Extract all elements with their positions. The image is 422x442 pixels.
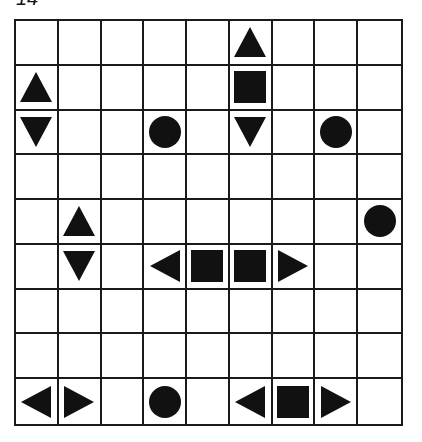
grid-cell-r8-c1[interactable] [59, 379, 102, 424]
triangle-up-icon [62, 204, 96, 238]
grid-cell-r8-c2[interactable] [102, 379, 145, 424]
grid-cell-r3-c0[interactable] [16, 155, 59, 200]
grid-cell-r8-c4[interactable] [187, 379, 230, 424]
grid-cell-r2-c4[interactable] [187, 111, 230, 156]
grid-cell-r5-c7[interactable] [315, 245, 358, 290]
grid-cell-r1-c6[interactable] [273, 66, 316, 111]
square-icon [276, 385, 310, 419]
grid-cell-r3-c5[interactable] [230, 155, 273, 200]
grid-cell-r0-c5[interactable] [230, 21, 273, 66]
grid-cell-r3-c3[interactable] [144, 155, 187, 200]
grid-cell-r8-c6[interactable] [273, 379, 316, 424]
grid-cell-r1-c7[interactable] [315, 66, 358, 111]
grid-cell-r7-c1[interactable] [59, 334, 102, 379]
grid-cell-r4-c6[interactable] [273, 200, 316, 245]
grid-cell-r1-c3[interactable] [144, 66, 187, 111]
grid-cell-r6-c3[interactable] [144, 290, 187, 335]
grid-cell-r4-c8[interactable] [358, 200, 401, 245]
grid-cell-r5-c0[interactable] [16, 245, 59, 290]
grid-cell-r6-c0[interactable] [16, 290, 59, 335]
circle-icon [319, 115, 353, 149]
grid-cell-r0-c4[interactable] [187, 21, 230, 66]
grid-cell-r2-c6[interactable] [273, 111, 316, 156]
grid-cell-r8-c7[interactable] [315, 379, 358, 424]
grid-cell-r1-c5[interactable] [230, 66, 273, 111]
grid-cell-r0-c2[interactable] [102, 21, 145, 66]
battleship-grid [14, 19, 403, 426]
grid-cell-r2-c2[interactable] [102, 111, 145, 156]
triangle-left-icon [148, 249, 182, 283]
puzzle-number: 14 [16, 0, 38, 8]
grid-cell-r0-c3[interactable] [144, 21, 187, 66]
grid-cell-r0-c7[interactable] [315, 21, 358, 66]
grid-cell-r5-c1[interactable] [59, 245, 102, 290]
grid-cell-r5-c2[interactable] [102, 245, 145, 290]
grid-cell-r7-c0[interactable] [16, 334, 59, 379]
grid-cell-r4-c2[interactable] [102, 200, 145, 245]
grid-cell-r7-c7[interactable] [315, 334, 358, 379]
grid-cell-r1-c8[interactable] [358, 66, 401, 111]
grid-cell-r5-c4[interactable] [187, 245, 230, 290]
grid-cell-r6-c2[interactable] [102, 290, 145, 335]
grid-cell-r4-c5[interactable] [230, 200, 273, 245]
triangle-up-icon [233, 25, 267, 59]
circle-icon [148, 115, 182, 149]
grid-cell-r1-c0[interactable] [16, 66, 59, 111]
grid-cell-r3-c1[interactable] [59, 155, 102, 200]
grid-cell-r5-c5[interactable] [230, 245, 273, 290]
square-icon [190, 249, 224, 283]
grid-cell-r0-c8[interactable] [358, 21, 401, 66]
grid-cell-r7-c8[interactable] [358, 334, 401, 379]
grid-cell-r6-c5[interactable] [230, 290, 273, 335]
circle-icon [363, 204, 397, 238]
grid-cell-r6-c6[interactable] [273, 290, 316, 335]
grid-cell-r2-c8[interactable] [358, 111, 401, 156]
grid-cell-r1-c1[interactable] [59, 66, 102, 111]
grid-cell-r6-c8[interactable] [358, 290, 401, 335]
grid-cell-r4-c7[interactable] [315, 200, 358, 245]
grid-cell-r4-c0[interactable] [16, 200, 59, 245]
grid-cell-r1-c4[interactable] [187, 66, 230, 111]
triangle-down-icon [233, 115, 267, 149]
triangle-left-icon [19, 385, 53, 419]
grid-cell-r3-c6[interactable] [273, 155, 316, 200]
grid-cell-r7-c2[interactable] [102, 334, 145, 379]
grid-cell-r8-c0[interactable] [16, 379, 59, 424]
grid-cell-r6-c4[interactable] [187, 290, 230, 335]
grid-cell-r0-c1[interactable] [59, 21, 102, 66]
grid-cell-r5-c6[interactable] [273, 245, 316, 290]
grid-cell-r5-c8[interactable] [358, 245, 401, 290]
grid-cell-r8-c8[interactable] [358, 379, 401, 424]
triangle-down-icon [62, 249, 96, 283]
grid-cell-r7-c3[interactable] [144, 334, 187, 379]
grid-cell-r0-c6[interactable] [273, 21, 316, 66]
triangle-down-icon [19, 115, 53, 149]
grid-cell-r4-c3[interactable] [144, 200, 187, 245]
grid-cell-r2-c1[interactable] [59, 111, 102, 156]
grid-cell-r7-c5[interactable] [230, 334, 273, 379]
grid-cell-r2-c0[interactable] [16, 111, 59, 156]
triangle-right-icon [276, 249, 310, 283]
grid-cell-r1-c2[interactable] [102, 66, 145, 111]
grid-cell-r3-c7[interactable] [315, 155, 358, 200]
grid-cell-r3-c8[interactable] [358, 155, 401, 200]
grid-cell-r8-c3[interactable] [144, 379, 187, 424]
triangle-right-icon [319, 385, 353, 419]
grid-cell-r8-c5[interactable] [230, 379, 273, 424]
grid-cell-r5-c3[interactable] [144, 245, 187, 290]
grid-cell-r6-c1[interactable] [59, 290, 102, 335]
triangle-up-icon [19, 70, 53, 104]
grid-cell-r7-c6[interactable] [273, 334, 316, 379]
grid-cell-r2-c7[interactable] [315, 111, 358, 156]
grid-cell-r7-c4[interactable] [187, 334, 230, 379]
grid-cell-r4-c4[interactable] [187, 200, 230, 245]
circle-icon [148, 385, 182, 419]
grid-cell-r0-c0[interactable] [16, 21, 59, 66]
grid-cell-r3-c2[interactable] [102, 155, 145, 200]
grid-cell-r3-c4[interactable] [187, 155, 230, 200]
grid-cell-r2-c5[interactable] [230, 111, 273, 156]
grid-cell-r2-c3[interactable] [144, 111, 187, 156]
grid-cell-r4-c1[interactable] [59, 200, 102, 245]
triangle-left-icon [233, 385, 267, 419]
grid-cell-r6-c7[interactable] [315, 290, 358, 335]
